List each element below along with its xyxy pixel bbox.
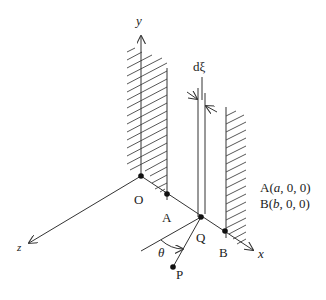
label-o: O xyxy=(134,193,143,206)
point-b xyxy=(222,228,228,234)
left-hatched-plane xyxy=(127,48,167,192)
point-p xyxy=(170,264,176,270)
coord-b-suffix: , 0, 0) xyxy=(280,196,310,211)
coord-a: A(a, 0, 0) xyxy=(260,181,311,194)
z-axis xyxy=(29,176,141,243)
point-a xyxy=(164,191,170,197)
diagram-canvas: y x z O A Q B P dξ θ A(a, 0, 0) B(b, 0, … xyxy=(0,0,326,300)
point-q xyxy=(198,214,204,220)
coord-b-prefix: B( xyxy=(260,196,273,211)
label-q: Q xyxy=(196,231,205,244)
y-axis-label: y xyxy=(136,14,142,27)
x-axis-label: x xyxy=(258,247,264,260)
z-axis-label: z xyxy=(17,242,21,253)
coord-a-suffix: , 0, 0) xyxy=(280,180,310,195)
angle-label: θ xyxy=(158,246,164,259)
coord-a-prefix: A( xyxy=(260,180,274,195)
coord-b: B(b, 0, 0) xyxy=(260,197,310,210)
point-o xyxy=(138,173,144,179)
label-b: B xyxy=(219,246,228,259)
label-a: A xyxy=(162,211,171,224)
right-hatched-plane xyxy=(226,111,246,244)
strip-width-label: dξ xyxy=(193,60,205,73)
strip-arrow-right xyxy=(206,106,217,112)
label-p: P xyxy=(176,268,183,281)
strip-arrow-left xyxy=(187,92,197,99)
